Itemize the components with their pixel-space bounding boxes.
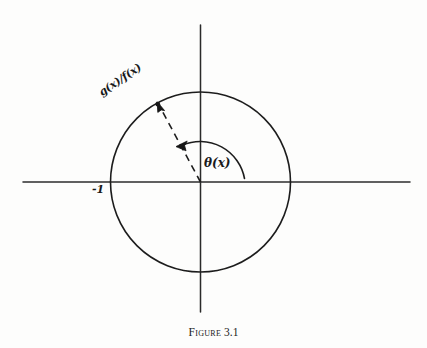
figure-caption: Figure 3.1 [0, 326, 427, 338]
figure-caption-prefix: Figure [189, 326, 222, 338]
figure-page: g(x)/f(x) θ(x) -1 Figure 3.1 [0, 0, 427, 348]
label-theta-of-x: θ(x) [204, 157, 231, 169]
point-marker-dot [155, 102, 160, 107]
label-minus-one: -1 [92, 184, 104, 195]
angle-arc-arrowhead [176, 141, 187, 151]
figure-drawing [0, 0, 427, 348]
figure-caption-number: 3.1 [224, 326, 238, 338]
